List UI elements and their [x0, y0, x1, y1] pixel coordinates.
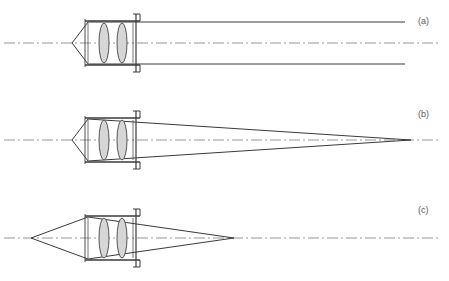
lens-element-2-c [117, 218, 127, 258]
figure-background [0, 0, 449, 281]
lens-element-1-a [99, 23, 109, 63]
panel-label-b: (b) [418, 109, 429, 119]
optical-ray-diagram: (a) (b) [0, 0, 449, 281]
panel-label-a: (a) [418, 16, 429, 26]
lens-element-2-a [117, 23, 127, 63]
panel-label-c: (c) [418, 205, 429, 215]
lens-element-1-c [99, 218, 109, 258]
lens-element-1-b [99, 120, 109, 160]
lens-element-2-b [117, 120, 127, 160]
